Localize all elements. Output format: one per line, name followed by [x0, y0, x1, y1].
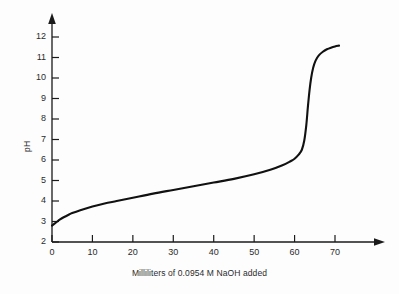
y-tick-label: 5	[24, 175, 46, 185]
x-axis-title: Milliliters of 0.0954 M NaOH added	[0, 268, 399, 278]
x-tick-label: 30	[161, 247, 185, 257]
y-axis-arrowhead	[48, 13, 56, 24]
x-tick-label: 60	[283, 247, 307, 257]
titration-curve-figure: 23456789101112 010203040506070 pH Millil…	[0, 0, 399, 294]
x-tick-label: 0	[40, 247, 64, 257]
x-tick-label: 70	[323, 247, 347, 257]
y-tick-label: 8	[24, 113, 46, 123]
y-tick-label: 2	[24, 236, 46, 246]
y-tick-label: 4	[24, 195, 46, 205]
x-tick-label: 50	[242, 247, 266, 257]
x-axis-arrowhead	[374, 238, 385, 246]
axis-lines	[48, 13, 385, 246]
y-axis-ticks	[52, 37, 59, 242]
y-tick-label: 10	[24, 72, 46, 82]
y-tick-label: 3	[24, 216, 46, 226]
x-tick-label: 10	[80, 247, 104, 257]
y-tick-label: 6	[24, 154, 46, 164]
titration-curve-line	[52, 46, 339, 226]
y-tick-label: 11	[24, 52, 46, 62]
x-tick-label: 40	[202, 247, 226, 257]
x-axis-ticks	[52, 235, 335, 242]
y-tick-label: 9	[24, 93, 46, 103]
y-tick-label: 12	[24, 31, 46, 41]
x-tick-label: 20	[121, 247, 145, 257]
y-axis-title: pH	[22, 140, 32, 151]
